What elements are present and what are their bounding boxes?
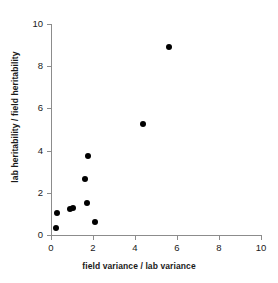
x-axis-title: field variance / lab variance (0, 261, 278, 271)
y-axis-title: lab heritability / field heritability (10, 37, 20, 197)
x-tick-mark (51, 236, 52, 240)
y-tick-label: 4 (21, 146, 43, 156)
plot-area (51, 24, 261, 235)
x-tick-mark (219, 236, 220, 240)
x-tick-label: 8 (208, 243, 230, 253)
x-tick-label: 0 (40, 243, 62, 253)
x-axis-line (51, 235, 262, 236)
x-tick-mark (177, 236, 178, 240)
x-tick-label: 2 (82, 243, 104, 253)
y-tick-label: 0 (21, 230, 43, 240)
data-point (82, 176, 88, 182)
y-tick-label: 2 (21, 188, 43, 198)
data-point (85, 153, 91, 159)
y-tick-label: 10 (21, 19, 43, 29)
data-point (70, 205, 76, 211)
x-tick-mark (135, 236, 136, 240)
scatter-plot-figure: 0246810 0246810 field variance / lab var… (0, 0, 278, 283)
x-tick-label: 6 (166, 243, 188, 253)
y-tick-label: 8 (21, 61, 43, 71)
x-tick-mark (93, 236, 94, 240)
x-tick-label: 10 (250, 243, 272, 253)
x-tick-mark (261, 236, 262, 240)
data-point (166, 44, 172, 50)
y-tick-label: 6 (21, 103, 43, 113)
x-tick-label: 4 (124, 243, 146, 253)
